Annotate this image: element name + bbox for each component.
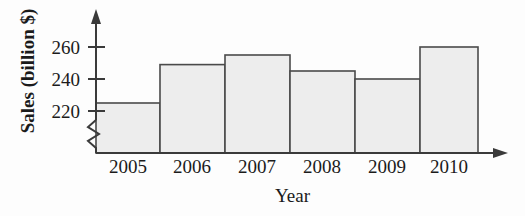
x-axis-arrowhead bbox=[493, 148, 508, 158]
bar-2008 bbox=[290, 71, 355, 153]
bar-2006 bbox=[160, 65, 225, 153]
bar-2005 bbox=[96, 103, 160, 153]
x-tick-label-2006: 2006 bbox=[157, 156, 227, 178]
bar-2009 bbox=[355, 79, 420, 153]
x-axis-title: Year bbox=[0, 185, 525, 207]
x-tick-label-2010: 2010 bbox=[414, 156, 484, 178]
x-tick-label-2008: 2008 bbox=[287, 156, 357, 178]
bars-group bbox=[96, 47, 478, 153]
bar-2007 bbox=[225, 55, 290, 153]
x-tick-label-2009: 2009 bbox=[352, 156, 422, 178]
y-axis-title: Sales (billion $) bbox=[17, 0, 39, 151]
x-tick-label-2005: 2005 bbox=[93, 156, 163, 178]
y-axis-arrowhead bbox=[91, 9, 101, 24]
bar-chart: 260 240 220 2005 2006 2007 2008 2009 201… bbox=[0, 0, 525, 216]
bar-2010 bbox=[420, 47, 478, 153]
x-tick-label-2007: 2007 bbox=[222, 156, 292, 178]
